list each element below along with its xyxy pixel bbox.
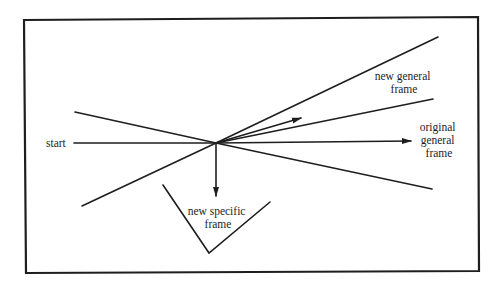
frame-shift-diagram: start new general frame original general…: [0, 0, 503, 285]
new-general-frame-label: new general frame: [375, 70, 434, 95]
new-specific-frame-label: new specific frame: [188, 205, 249, 230]
original-general-frame-label: original general frame: [420, 121, 459, 159]
new-frame-lower-left-line: [82, 143, 216, 206]
original-frame-upper-boundary: [75, 112, 216, 143]
original-frame-lower-boundary: [216, 143, 432, 189]
diagram-border: [24, 17, 479, 273]
new-general-frame-lower-boundary: [216, 99, 433, 143]
new-general-frame-arrow: [216, 118, 301, 143]
original-general-frame-arrow: [216, 141, 411, 143]
start-label: start: [46, 137, 67, 149]
